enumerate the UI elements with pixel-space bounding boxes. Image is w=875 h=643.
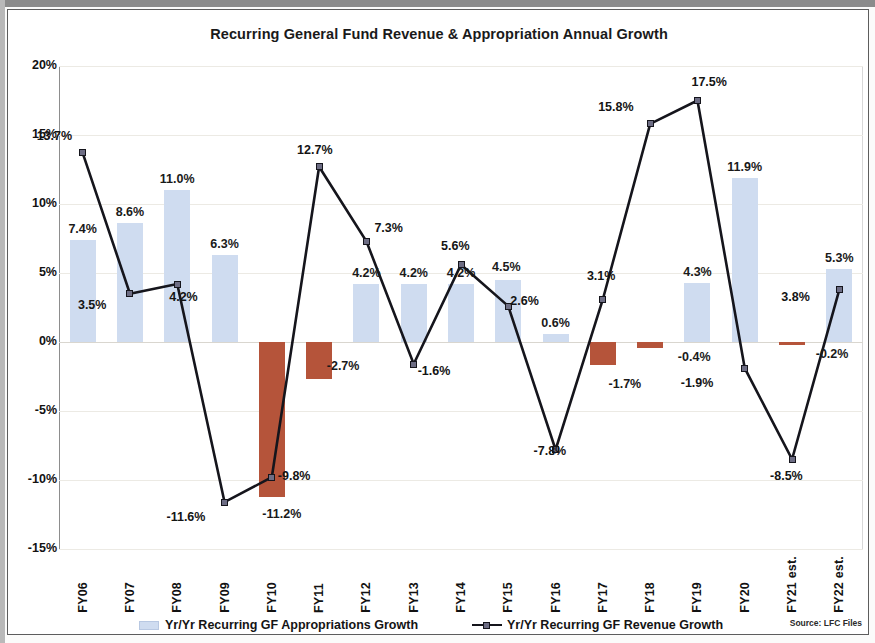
legend-line-marker-icon bbox=[472, 620, 502, 630]
bar-label-fy20: 11.9% bbox=[715, 160, 775, 174]
line-label-fy19: 17.5% bbox=[691, 75, 726, 89]
x-axis-tick-fy17: FY17 bbox=[596, 582, 610, 613]
bar-label-fy11: -2.7% bbox=[313, 359, 373, 373]
y-axis-tick-label: -15% bbox=[11, 541, 57, 555]
y-axis-tick-label: -5% bbox=[11, 403, 57, 417]
legend-label-revenue: Yr/Yr Recurring GF Revenue Growth bbox=[507, 618, 723, 632]
bar-label-fy21est: -0.2% bbox=[802, 347, 862, 361]
line-marker-fy20 bbox=[741, 365, 748, 372]
y-axis-tick-label: 5% bbox=[11, 265, 57, 279]
line-label-fy11: 12.7% bbox=[297, 143, 332, 157]
line-label-fy17: 3.1% bbox=[587, 269, 616, 283]
bar-label-fy10: -11.2% bbox=[252, 507, 312, 521]
line-marker-fy18 bbox=[647, 120, 654, 127]
x-axis-tick-fy21est: FY21 est. bbox=[785, 556, 799, 613]
x-axis-tick-fy13: FY13 bbox=[407, 582, 421, 613]
line-series bbox=[59, 66, 863, 549]
line-label-fy16: -7.8% bbox=[534, 444, 567, 458]
x-axis-tick-fy07: FY07 bbox=[123, 582, 137, 613]
bar-label-fy08: 11.0% bbox=[147, 172, 207, 186]
legend-label-appropriations: Yr/Yr Recurring GF Appropriations Growth bbox=[165, 618, 418, 632]
line-label-fy06: 13.7% bbox=[37, 129, 72, 143]
x-axis-tick-fy12: FY12 bbox=[359, 582, 373, 613]
line-marker-fy11 bbox=[316, 163, 323, 170]
line-label-fy20: -1.9% bbox=[681, 376, 714, 390]
line-marker-fy19 bbox=[694, 97, 701, 104]
line-label-fy12: 7.3% bbox=[374, 221, 403, 235]
bar-label-fy22est: 5.3% bbox=[809, 251, 869, 265]
line-marker-fy07 bbox=[126, 290, 133, 297]
line-label-fy15: 2.6% bbox=[510, 294, 539, 308]
line-label-fy22est: 3.8% bbox=[781, 290, 810, 304]
line-marker-fy09 bbox=[221, 499, 228, 506]
chart-legend: Yr/Yr Recurring GF Appropriations Growth… bbox=[59, 617, 863, 639]
line-label-fy10: -9.8% bbox=[278, 469, 311, 483]
chart-frame: Recurring General Fund Revenue & Appropr… bbox=[7, 9, 869, 635]
x-axis-tick-fy19: FY19 bbox=[690, 582, 704, 613]
y-axis-tick-label: 10% bbox=[11, 196, 57, 210]
x-axis-tick-fy15: FY15 bbox=[501, 582, 515, 613]
x-axis-tick-fy16: FY16 bbox=[549, 582, 563, 613]
line-marker-fy06 bbox=[79, 149, 86, 156]
bar-label-fy17: -1.7% bbox=[595, 377, 655, 391]
line-label-fy07: 3.5% bbox=[78, 298, 107, 312]
x-axis-tick-fy18: FY18 bbox=[643, 582, 657, 613]
scan-left-edge bbox=[0, 0, 5, 643]
bar-label-fy16: 0.6% bbox=[526, 316, 586, 330]
line-label-fy13: -1.6% bbox=[418, 364, 451, 378]
bar-label-fy07: 8.6% bbox=[100, 205, 160, 219]
line-marker-fy21est bbox=[789, 456, 796, 463]
legend-item-revenue: Yr/Yr Recurring GF Revenue Growth bbox=[472, 618, 723, 632]
bar-label-fy15: 4.5% bbox=[476, 260, 536, 274]
legend-item-appropriations: Yr/Yr Recurring GF Appropriations Growth bbox=[139, 618, 418, 632]
x-axis-tick-fy09: FY09 bbox=[218, 582, 232, 613]
scan-top-edge bbox=[0, 0, 875, 7]
x-axis-tick-fy06: FY06 bbox=[76, 582, 90, 613]
y-axis-tick-label: -10% bbox=[11, 472, 57, 486]
x-axis-tick-fy08: FY08 bbox=[170, 582, 184, 613]
x-axis-tick-fy22est: FY22 est. bbox=[832, 556, 846, 613]
gridline bbox=[59, 549, 863, 550]
bar-label-fy09: 6.3% bbox=[195, 237, 255, 251]
line-marker-fy10 bbox=[268, 474, 275, 481]
y-axis-tick-label: 20% bbox=[11, 58, 57, 72]
line-marker-fy12 bbox=[363, 238, 370, 245]
page-background: Recurring General Fund Revenue & Appropr… bbox=[0, 0, 875, 643]
x-axis-tick-fy11: FY11 bbox=[312, 583, 326, 613]
x-axis-tick-fy10: FY10 bbox=[265, 582, 279, 613]
line-marker-fy22est bbox=[836, 286, 843, 293]
bar-label-fy19: 4.3% bbox=[667, 265, 727, 279]
y-axis-tick-label: 0% bbox=[11, 334, 57, 348]
line-label-fy18: 15.8% bbox=[598, 100, 633, 114]
chart-title: Recurring General Fund Revenue & Appropr… bbox=[8, 26, 870, 42]
line-label-fy14: 5.6% bbox=[441, 239, 470, 253]
x-axis-tick-fy14: FY14 bbox=[454, 582, 468, 613]
x-axis-labels: FY06FY07FY08FY09FY10FY11FY12FY13FY14FY15… bbox=[59, 551, 863, 613]
line-label-fy08: 4.2% bbox=[169, 290, 198, 304]
line-label-fy21est: -8.5% bbox=[770, 469, 803, 483]
line-label-fy09: -11.6% bbox=[167, 510, 206, 524]
legend-bar-swatch-icon bbox=[139, 621, 159, 630]
bar-label-fy06: 7.4% bbox=[53, 222, 113, 236]
source-note: Source: LFC Files bbox=[790, 618, 862, 628]
plot-area: 20%15%10%5%0%-5%-10%-15% 7.4%8.6%11.0%6.… bbox=[59, 66, 863, 549]
line-marker-fy17 bbox=[599, 296, 606, 303]
line-marker-fy13 bbox=[410, 361, 417, 368]
line-marker-fy08 bbox=[174, 281, 181, 288]
bar-label-fy18: -0.4% bbox=[664, 350, 724, 364]
x-axis-tick-fy20: FY20 bbox=[738, 582, 752, 613]
